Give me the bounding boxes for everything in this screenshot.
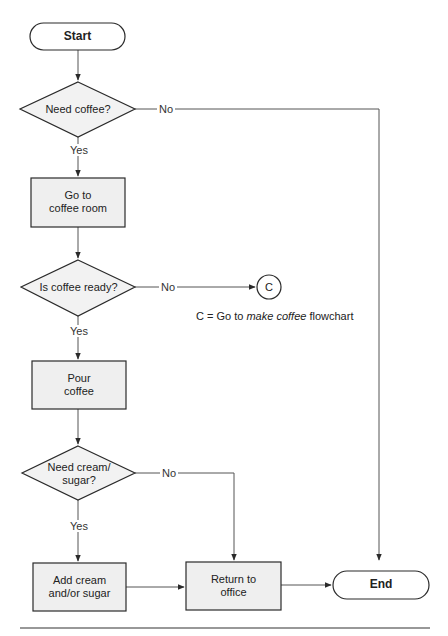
- connector-c-label: C: [257, 281, 281, 294]
- is-ready-yes-label: Yes: [68, 325, 90, 337]
- need-cream-no-label: No: [160, 467, 178, 479]
- return-line1: Return to: [186, 573, 281, 586]
- note-suffix: flowchart: [306, 310, 353, 322]
- need-coffee-yes-label: Yes: [68, 144, 90, 156]
- need-cream-yes-label: Yes: [68, 520, 90, 532]
- go-to-coffee-room-label: Go to coffee room: [31, 189, 125, 215]
- return-to-office-label: Return to office: [186, 573, 281, 599]
- add-cream-line2: and/or sugar: [33, 587, 126, 600]
- connector-note: C = Go to make coffee flowchart: [196, 310, 353, 322]
- need-cream-line2: sugar?: [22, 474, 136, 487]
- pour-line2: coffee: [32, 385, 126, 398]
- need-coffee-label: Need coffee?: [20, 103, 136, 116]
- go-room-line1: Go to: [31, 189, 125, 202]
- add-cream-label: Add cream and/or sugar: [33, 574, 126, 600]
- return-line2: office: [186, 586, 281, 599]
- note-prefix: C = Go to: [196, 310, 246, 322]
- end-label: End: [333, 578, 429, 591]
- need-cream-label: Need cream/ sugar?: [22, 461, 136, 487]
- add-cream-line1: Add cream: [33, 574, 126, 587]
- need-cream-line1: Need cream/: [22, 461, 136, 474]
- start-label: Start: [30, 30, 125, 43]
- note-italic: make coffee: [246, 310, 306, 322]
- is-coffee-ready-label: Is coffee ready?: [21, 281, 136, 294]
- need-coffee-no-label: No: [157, 103, 175, 115]
- arrow-need-cream-no: [135, 473, 234, 560]
- arrow-need-coffee-no: [135, 109, 379, 560]
- pour-line1: Pour: [32, 372, 126, 385]
- go-room-line2: coffee room: [31, 202, 125, 215]
- pour-coffee-label: Pour coffee: [32, 372, 126, 398]
- is-ready-no-label: No: [159, 281, 177, 293]
